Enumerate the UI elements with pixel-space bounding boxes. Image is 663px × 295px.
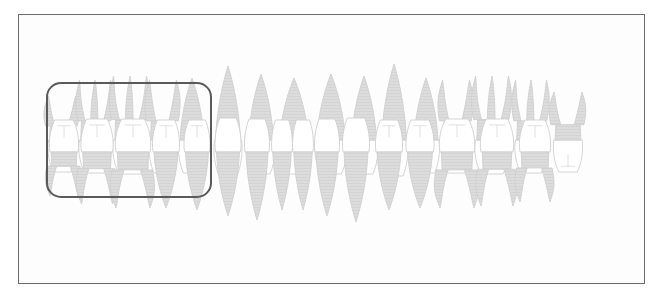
root-prong — [574, 92, 586, 125]
root-prong — [527, 80, 534, 121]
root-prong — [515, 168, 527, 202]
root-prong — [91, 80, 98, 121]
tooth-LL3[interactable] — [342, 118, 369, 222]
tooth-crown — [244, 119, 269, 152]
tooth-LR3[interactable] — [215, 118, 241, 216]
tooth-root — [344, 152, 368, 222]
root-trunk — [51, 152, 77, 166]
tooth-LR5[interactable] — [152, 120, 179, 208]
root-trunk — [441, 152, 472, 170]
root-prong — [434, 170, 448, 208]
root-prong — [540, 80, 550, 121]
root-prong — [76, 169, 89, 204]
root-prong — [476, 169, 489, 206]
tooth-root — [273, 152, 291, 210]
teeth-illustration — [0, 0, 663, 295]
tooth-crown — [314, 119, 339, 152]
tooth-root — [377, 152, 401, 210]
tooth-LL6[interactable] — [434, 119, 478, 208]
tooth-LR2[interactable] — [244, 119, 269, 220]
tooth-root — [246, 152, 268, 220]
tooth-LL4[interactable] — [375, 120, 402, 210]
root-prong — [76, 80, 85, 121]
tooth-root — [408, 152, 433, 208]
tooth-root — [294, 152, 312, 210]
tooth-LL1[interactable] — [293, 120, 314, 210]
root-prong — [472, 76, 482, 120]
root-trunk — [83, 152, 112, 169]
root-trunk — [521, 152, 549, 168]
root-trunk — [117, 152, 148, 170]
tooth-LL2[interactable] — [314, 119, 339, 216]
tooth-crown — [272, 120, 293, 152]
root-prong — [501, 76, 511, 120]
tooth-UL8[interactable] — [549, 92, 585, 172]
root-prong — [169, 80, 180, 121]
tooth-LL5[interactable] — [406, 120, 434, 208]
tooth-root — [186, 152, 209, 210]
root-prong — [549, 92, 560, 125]
root-prong — [512, 80, 521, 121]
root-prong — [140, 170, 154, 208]
tooth-root — [217, 152, 240, 216]
tooth-LR1[interactable] — [272, 120, 293, 210]
tooth-crown — [342, 118, 369, 152]
tooth-root — [316, 152, 338, 216]
root-prong — [438, 80, 449, 121]
root-prong — [542, 168, 554, 202]
root-prong — [487, 76, 495, 120]
tooth-crown — [215, 118, 241, 152]
root-trunk — [482, 152, 511, 169]
root-trunk — [555, 125, 581, 140]
tooth-crown — [293, 120, 314, 152]
dental-diagram-stage — [0, 0, 663, 295]
root-prong — [44, 96, 55, 126]
tooth-root — [154, 152, 178, 208]
